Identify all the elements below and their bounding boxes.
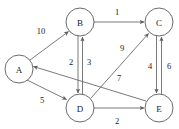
edge-weight-a-to-b: 10 [37, 26, 46, 36]
edge-weight-b-to-c: 1 [115, 7, 119, 17]
edge-weight-b-to-d: 2 [69, 57, 73, 67]
edges-layer [27, 22, 162, 108]
node-label-c: C [156, 18, 162, 28]
node-label-e: E [156, 104, 162, 114]
edge-weight-e-to-a: 7 [117, 73, 121, 83]
node-label-b: B [77, 18, 83, 28]
edge-e-to-a [34, 67, 147, 102]
edge-weight-a-to-d: 5 [40, 95, 44, 105]
graph-svg: A B C D E 10 1 2 3 5 2 9 7 4 6 [0, 0, 179, 129]
edge-weight-d-to-b: 3 [87, 57, 91, 67]
edge-a-to-d [27, 80, 67, 100]
edge-weight-e-to-c: 6 [167, 61, 171, 71]
graph-diagram-canvas: A B C D E 10 1 2 3 5 2 9 7 4 6 [0, 0, 179, 129]
node-label-a: A [16, 65, 23, 75]
edge-weight-c-to-e: 4 [148, 61, 153, 71]
edge-weight-d-to-e: 2 [115, 116, 119, 126]
node-label-d: D [77, 104, 84, 114]
edge-weight-d-to-c: 9 [120, 43, 124, 53]
